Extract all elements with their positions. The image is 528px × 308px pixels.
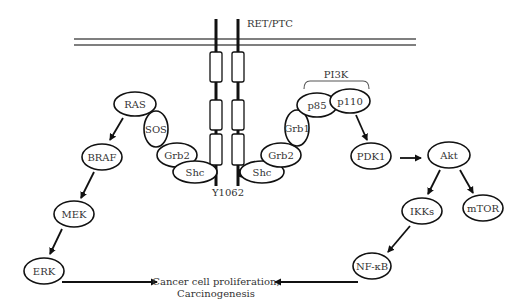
node-p110: p110 <box>330 89 370 113</box>
node-grb2-right: Grb2 <box>261 143 301 167</box>
arrow-ikks-to-nfkb <box>388 226 410 252</box>
outcome-line-1: Cancer cell proliferation, <box>152 276 279 287</box>
node-label: Shc <box>186 167 205 178</box>
node-braf: BRAF <box>82 144 122 170</box>
ret-ptc-receptor <box>209 19 247 186</box>
cell-membrane <box>74 39 416 45</box>
node-ras: RAS <box>114 92 156 116</box>
node-label: NF-κB <box>356 261 388 272</box>
arrow-p110-to-pdk1 <box>356 115 367 140</box>
node-label: mTOR <box>467 203 499 214</box>
outcome-line-2: Carcinogenesis <box>177 288 255 299</box>
node-label: BRAF <box>87 152 116 163</box>
receptor-domain <box>232 52 244 82</box>
node-label: p110 <box>337 96 363 107</box>
node-label: IKKs <box>410 206 434 217</box>
pi3k-bracket <box>304 81 369 89</box>
node-label: Akt <box>439 150 457 161</box>
node-label: Grb1 <box>284 123 310 134</box>
receptor-domain <box>210 100 222 130</box>
node-erk: ERK <box>24 258 64 284</box>
node-sos: SOS <box>144 111 168 147</box>
pi3k-label: PI3K <box>324 69 349 80</box>
node-label: PDK1 <box>357 151 386 162</box>
node-label: RAS <box>124 99 146 110</box>
receptor-label: RET/PTC <box>247 18 293 29</box>
node-label: p85 <box>307 100 326 111</box>
arrow-braf-to-mek <box>81 172 94 198</box>
phosphosite-label: Y1062 <box>211 187 244 198</box>
arrow-akt-to-ikks <box>428 170 440 194</box>
node-label: SOS <box>145 124 167 135</box>
node-mek: MEK <box>54 201 94 227</box>
node-label: Grb2 <box>268 150 294 161</box>
receptor-domain <box>210 52 222 82</box>
node-nfkb: NF-κB <box>353 253 391 279</box>
node-mtor: mTOR <box>463 195 503 221</box>
outcome-text: Cancer cell proliferation, Carcinogenesi… <box>152 276 279 299</box>
arrow-ras-to-braf <box>110 118 123 140</box>
node-label: MEK <box>61 209 87 220</box>
receptor-domain <box>232 100 244 130</box>
node-ikks: IKKs <box>402 198 442 224</box>
receptor-domain <box>232 134 244 165</box>
arrow-akt-to-mtor <box>460 170 473 193</box>
ret-ptc-pathway-diagram: RET/PTC PI3K RASSOSGrb2ShcShcGrb2Grb1p85… <box>0 0 528 308</box>
node-label: Grb2 <box>164 150 190 161</box>
receptor-domain <box>210 134 222 165</box>
edges <box>50 115 473 282</box>
node-akt: Akt <box>428 142 470 168</box>
node-pdk1: PDK1 <box>351 143 391 169</box>
node-shc-left: Shc <box>173 161 217 183</box>
node-label: Shc <box>253 167 272 178</box>
arrow-mek-to-erk <box>50 229 62 254</box>
node-label: ERK <box>33 266 56 277</box>
